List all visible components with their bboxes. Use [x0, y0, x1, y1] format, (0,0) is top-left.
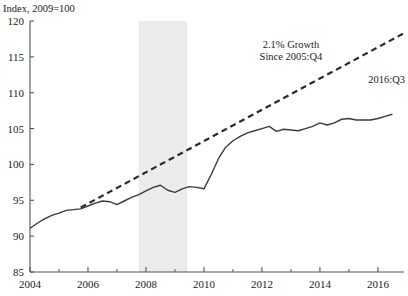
growth-annotation-line1: 2.1% Growth: [263, 39, 320, 50]
y-tick-label: 110: [8, 87, 25, 99]
x-tick-label: 2004: [19, 278, 42, 290]
x-tick-label: 2012: [251, 278, 273, 290]
growth-annotation-line2: Since 2005:Q4: [260, 51, 323, 62]
y-tick-label: 115: [8, 51, 25, 63]
chart-container: 859095100105110115120 200420062008201020…: [0, 0, 408, 296]
y-tick-label: 85: [13, 266, 25, 278]
line-chart: 859095100105110115120 200420062008201020…: [0, 0, 408, 296]
y-axis-title: Index, 2009=100: [3, 3, 75, 14]
x-tick-label: 2010: [193, 278, 216, 290]
x-tick-label: 2006: [77, 278, 100, 290]
recession-shading: [139, 21, 187, 272]
recession-band: [139, 21, 187, 272]
x-tick-label: 2014: [309, 278, 332, 290]
y-tick-label: 100: [8, 158, 25, 170]
y-tick-label: 90: [13, 230, 25, 242]
endpoint-annotation: 2016:Q3: [368, 74, 405, 85]
chart-background: [0, 0, 408, 296]
y-tick-label: 95: [13, 194, 25, 206]
y-tick-label: 120: [8, 15, 25, 27]
x-tick-label: 2008: [135, 278, 158, 290]
y-tick-label: 105: [8, 123, 25, 135]
x-tick-label: 2016: [367, 278, 390, 290]
